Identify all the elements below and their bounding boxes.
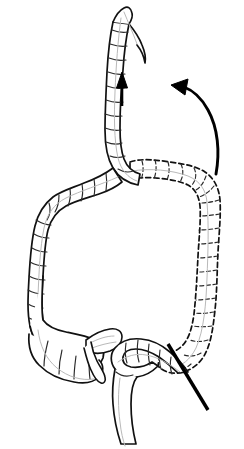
rotation-arrow-shaft [184, 87, 218, 174]
rectum-group [113, 369, 137, 446]
rectum-outline [113, 369, 137, 444]
colon-diagram-canvas [0, 0, 244, 449]
rotation-arrow-head [171, 79, 188, 95]
rotation-arrow [171, 79, 218, 174]
elevated-limb-group [105, 7, 145, 185]
anatomical-figure: Colon mobilization and sigmoid transecti… [0, 0, 244, 449]
divided-open-end [113, 7, 132, 24]
